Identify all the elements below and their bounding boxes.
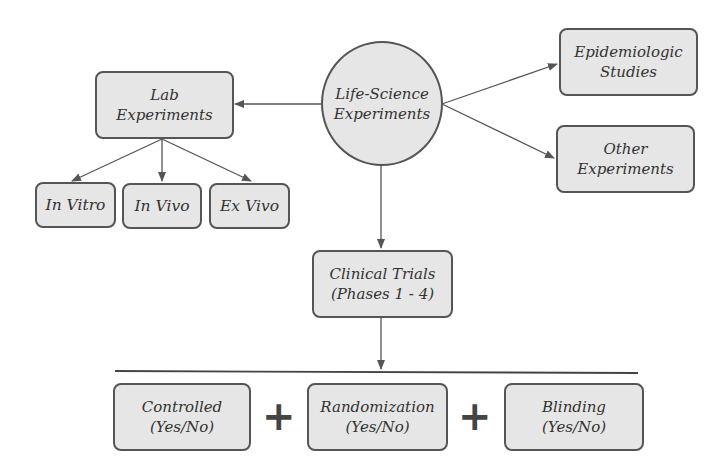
node-clinical-trials: Clinical Trials (Phases 1 - 4)	[312, 250, 453, 318]
node-label: Epidemiologic	[574, 42, 683, 62]
node-label: Other	[603, 139, 647, 159]
plus-icon: +	[458, 396, 488, 436]
node-label: Studies	[600, 62, 657, 82]
node-controlled: Controlled (Yes/No)	[113, 383, 251, 451]
node-label: Experiments	[334, 104, 430, 124]
arrow-root-to-epidemiologic	[442, 64, 557, 104]
arrow-lab-to-ex-vivo	[162, 139, 251, 181]
node-epidemiologic-studies: Epidemiologic Studies	[559, 28, 698, 96]
node-in-vivo: In Vivo	[122, 183, 202, 229]
node-label: (Phases 1 - 4)	[331, 284, 434, 304]
diagram-canvas: Life-Science Experiments Lab Experiments…	[0, 0, 722, 475]
node-ex-vivo: Ex Vivo	[209, 183, 290, 229]
node-label: (Yes/No)	[542, 417, 606, 437]
node-label: Experiments	[116, 105, 212, 125]
node-randomization: Randomization (Yes/No)	[307, 383, 448, 451]
node-life-science-experiments: Life-Science Experiments	[321, 41, 443, 166]
node-label: (Yes/No)	[150, 417, 214, 437]
node-in-vitro: In Vitro	[35, 182, 116, 228]
node-label: Clinical Trials	[330, 264, 436, 284]
arrow-lab-to-in-vitro	[72, 139, 162, 181]
node-label: Controlled	[142, 397, 222, 417]
node-other-experiments: Other Experiments	[556, 125, 695, 193]
node-blinding: Blinding (Yes/No)	[504, 383, 644, 451]
arrow-root-to-other	[442, 104, 554, 158]
plus-icon: +	[262, 396, 292, 436]
node-label: Ex Vivo	[220, 196, 279, 216]
node-label: In Vivo	[135, 196, 190, 216]
node-label: (Yes/No)	[345, 417, 409, 437]
node-label: In Vitro	[46, 195, 106, 215]
node-label: Life-Science	[335, 84, 429, 104]
divider-line	[115, 371, 638, 373]
node-lab-experiments: Lab Experiments	[95, 71, 234, 139]
node-label: Experiments	[577, 159, 673, 179]
node-label: Randomization	[320, 397, 434, 417]
node-label: Blinding	[542, 397, 606, 417]
node-label: Lab	[150, 85, 179, 105]
